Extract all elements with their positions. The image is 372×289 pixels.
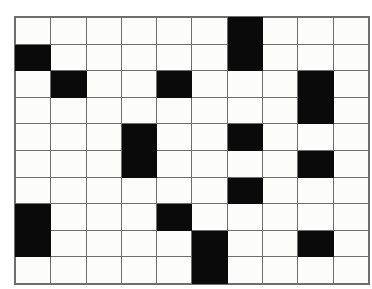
grid-cell-filled[interactable] [227, 18, 262, 45]
grid-cell-empty[interactable] [298, 44, 333, 71]
grid-cell-empty[interactable] [227, 204, 262, 231]
grid-cell-empty[interactable] [157, 18, 192, 45]
grid-cell-empty[interactable] [86, 150, 121, 177]
grid-cell-filled[interactable] [192, 230, 227, 257]
grid-cell-filled[interactable] [121, 124, 156, 151]
grid-cell-empty[interactable] [333, 177, 368, 204]
grid-cell-empty[interactable] [157, 257, 192, 284]
grid-cell-empty[interactable] [121, 71, 156, 98]
grid-cell-empty[interactable] [121, 177, 156, 204]
grid-cell-empty[interactable] [16, 71, 51, 98]
grid-cell-empty[interactable] [51, 150, 86, 177]
grid-cell-empty[interactable] [121, 18, 156, 45]
grid-cell-empty[interactable] [157, 97, 192, 124]
grid-cell-empty[interactable] [263, 177, 298, 204]
grid-cell-empty[interactable] [86, 230, 121, 257]
grid-cell-filled[interactable] [298, 230, 333, 257]
grid-cell-filled[interactable] [157, 71, 192, 98]
grid-cell-empty[interactable] [263, 124, 298, 151]
grid-cell-empty[interactable] [51, 257, 86, 284]
grid-cell-empty[interactable] [333, 44, 368, 71]
grid-cell-empty[interactable] [51, 124, 86, 151]
grid-cell-empty[interactable] [298, 257, 333, 284]
grid-cell-empty[interactable] [192, 97, 227, 124]
grid-cell-filled[interactable] [157, 204, 192, 231]
grid-cell-empty[interactable] [51, 44, 86, 71]
grid-cell-filled[interactable] [227, 44, 262, 71]
grid-cell-filled[interactable] [121, 150, 156, 177]
grid-cell-empty[interactable] [298, 18, 333, 45]
grid-cell-empty[interactable] [157, 177, 192, 204]
grid-cell-empty[interactable] [263, 44, 298, 71]
grid-cell-filled[interactable] [227, 124, 262, 151]
grid-cell-empty[interactable] [16, 177, 51, 204]
grid-cell-empty[interactable] [121, 204, 156, 231]
grid-cell-empty[interactable] [157, 44, 192, 71]
grid-cell-empty[interactable] [333, 230, 368, 257]
grid-cell-empty[interactable] [16, 124, 51, 151]
grid-cell-empty[interactable] [298, 204, 333, 231]
grid-cell-empty[interactable] [86, 177, 121, 204]
grid-cell-empty[interactable] [333, 124, 368, 151]
grid-cell-filled[interactable] [51, 71, 86, 98]
grid-cell-empty[interactable] [227, 150, 262, 177]
grid-cell-empty[interactable] [51, 204, 86, 231]
grid-cell-empty[interactable] [227, 97, 262, 124]
grid-cell-empty[interactable] [86, 124, 121, 151]
grid-cell-empty[interactable] [16, 257, 51, 284]
grid-cell-empty[interactable] [263, 18, 298, 45]
grid-cell-empty[interactable] [333, 204, 368, 231]
grid-cell-empty[interactable] [192, 150, 227, 177]
grid-cell-empty[interactable] [86, 257, 121, 284]
grid-cell-empty[interactable] [192, 204, 227, 231]
grid-cell-empty[interactable] [227, 257, 262, 284]
grid-cell-empty[interactable] [16, 97, 51, 124]
grid-cell-empty[interactable] [263, 71, 298, 98]
grid-cell-empty[interactable] [333, 97, 368, 124]
grid-cell-empty[interactable] [121, 97, 156, 124]
grid-cell-filled[interactable] [16, 44, 51, 71]
grid-cell-empty[interactable] [16, 18, 51, 45]
grid-cell-empty[interactable] [298, 124, 333, 151]
grid-cell-empty[interactable] [86, 71, 121, 98]
grid-cell-empty[interactable] [51, 97, 86, 124]
grid-cell-empty[interactable] [86, 18, 121, 45]
grid-cell-empty[interactable] [157, 124, 192, 151]
grid-cell-empty[interactable] [192, 18, 227, 45]
grid-cell-empty[interactable] [121, 257, 156, 284]
grid-cell-empty[interactable] [157, 230, 192, 257]
grid-cell-empty[interactable] [263, 150, 298, 177]
grid-cell-empty[interactable] [51, 230, 86, 257]
grid-cell-filled[interactable] [298, 97, 333, 124]
grid-cell-empty[interactable] [263, 97, 298, 124]
grid-cell-empty[interactable] [86, 97, 121, 124]
grid-cell-filled[interactable] [16, 204, 51, 231]
grid-cell-empty[interactable] [298, 177, 333, 204]
grid-cell-empty[interactable] [227, 71, 262, 98]
grid-cell-empty[interactable] [51, 177, 86, 204]
grid-cell-filled[interactable] [298, 150, 333, 177]
grid-cell-empty[interactable] [192, 71, 227, 98]
grid-cell-empty[interactable] [86, 204, 121, 231]
grid-cell-empty[interactable] [157, 150, 192, 177]
grid-cell-empty[interactable] [333, 71, 368, 98]
grid-cell-filled[interactable] [16, 230, 51, 257]
grid-cell-filled[interactable] [298, 71, 333, 98]
grid-cell-empty[interactable] [263, 230, 298, 257]
grid-cell-empty[interactable] [192, 124, 227, 151]
grid-cell-empty[interactable] [121, 44, 156, 71]
grid-cell-empty[interactable] [192, 44, 227, 71]
grid-cell-filled[interactable] [192, 257, 227, 284]
grid-cell-empty[interactable] [263, 204, 298, 231]
grid-cell-empty[interactable] [227, 230, 262, 257]
grid-cell-empty[interactable] [51, 18, 86, 45]
grid-cell-empty[interactable] [333, 150, 368, 177]
grid-cell-empty[interactable] [333, 18, 368, 45]
grid-cell-empty[interactable] [333, 257, 368, 284]
grid-cell-empty[interactable] [16, 150, 51, 177]
grid-cell-empty[interactable] [121, 230, 156, 257]
grid-cell-filled[interactable] [227, 177, 262, 204]
grid-cell-empty[interactable] [192, 177, 227, 204]
grid-cell-empty[interactable] [263, 257, 298, 284]
grid-cell-empty[interactable] [86, 44, 121, 71]
